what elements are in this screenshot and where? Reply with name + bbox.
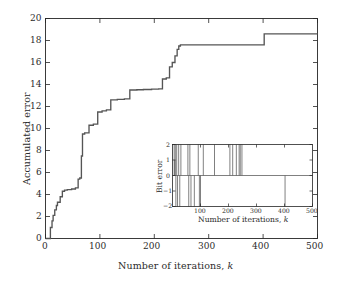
inset-x-tick-400: 400 (278, 207, 290, 214)
inset-x-tick-500: 500 (306, 207, 318, 214)
inset-x-tick-300: 300 (250, 207, 262, 214)
inset-x-tick-200: 200 (222, 207, 234, 214)
figure-canvas: Accumulated error Number of iterations, … (0, 0, 338, 283)
inset-y-tick-neg1: −1 (163, 187, 172, 194)
inset-x-axis-title: Number of iterations, k (198, 215, 288, 224)
inset-y-tick-neg2: −2 (163, 202, 172, 209)
inset-y-tick-2: 2 (166, 141, 170, 148)
inset-x-axis-title-variable: k (284, 215, 289, 224)
inset-y-tick-1: 1 (166, 156, 170, 163)
inset-x-axis-title-text: Number of iterations, (198, 215, 284, 224)
inset-y-tick-0: 0 (166, 172, 170, 179)
inset-x-tick-100: 100 (194, 207, 206, 214)
